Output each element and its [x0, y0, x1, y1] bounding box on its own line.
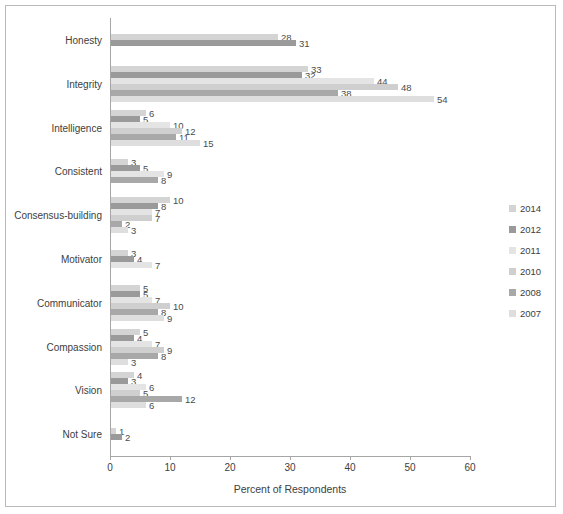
chart-frame: HonestyIntegrityIntelligenceConsistentCo…	[5, 5, 556, 507]
chart-legend: 201420122011201020082007	[509, 198, 557, 324]
category-label: Intelligence	[51, 122, 102, 133]
bar[interactable]	[110, 315, 164, 321]
bar-row: 7	[110, 262, 470, 268]
bar-row: 9	[110, 315, 470, 321]
bar[interactable]	[110, 262, 152, 268]
category-label: Vision	[75, 385, 102, 396]
legend-item[interactable]: 2012	[509, 219, 557, 240]
legend-swatch-icon	[509, 289, 516, 296]
bar-value-label: 7	[152, 259, 160, 270]
bar-value-label: 3	[128, 356, 136, 367]
bar-value-label: 31	[296, 37, 310, 48]
bar-group: 4365126	[110, 372, 470, 408]
legend-swatch-icon	[509, 205, 516, 212]
bar-value-label: 3	[128, 225, 136, 236]
bar-row: 6	[110, 402, 470, 408]
x-axis-tick-label: 50	[404, 462, 415, 473]
bar[interactable]	[110, 359, 128, 365]
plot-area: 2831333244483854651012111535981087723347…	[110, 18, 470, 456]
legend-swatch-icon	[509, 226, 516, 233]
category-label: Communicator	[37, 297, 102, 308]
legend-swatch-icon	[509, 247, 516, 254]
bar-group: 333244483854	[110, 66, 470, 102]
legend-label: 2007	[520, 308, 541, 319]
legend-item[interactable]: 2010	[509, 261, 557, 282]
bar[interactable]	[110, 227, 128, 233]
x-axis-tick	[110, 456, 111, 460]
bar-value-label: 9	[164, 312, 172, 323]
bar[interactable]	[110, 177, 158, 183]
x-axis-tick	[290, 456, 291, 460]
legend-label: 2012	[520, 224, 541, 235]
bar[interactable]	[110, 402, 146, 408]
y-axis-line	[110, 18, 111, 456]
x-axis-tick-label: 30	[284, 462, 295, 473]
x-axis-tick	[470, 456, 471, 460]
category-label: Consistent	[55, 166, 102, 177]
category-label: Consensus-building	[14, 210, 102, 221]
x-axis-title: Percent of Respondents	[110, 483, 470, 495]
x-axis-tick	[170, 456, 171, 460]
bar[interactable]	[110, 96, 434, 102]
bar-group: 547983	[110, 329, 470, 365]
bar-row: 15	[110, 140, 470, 146]
category-axis-labels: HonestyIntegrityIntelligenceConsistentCo…	[6, 18, 102, 456]
bar-group: 2831	[110, 34, 470, 46]
legend-item[interactable]: 2011	[509, 240, 557, 261]
legend-swatch-icon	[509, 268, 516, 275]
bar-group: 5571089	[110, 285, 470, 321]
legend-label: 2011	[520, 245, 540, 256]
bar[interactable]	[110, 40, 296, 46]
bar-row: 31	[110, 40, 470, 46]
bar-row: 2	[110, 434, 470, 440]
x-axis-tick-label: 40	[344, 462, 355, 473]
x-axis-line: 0102030405060	[110, 456, 470, 457]
bar-row: 3	[110, 359, 470, 365]
bar[interactable]	[110, 140, 200, 146]
bar-group: 1087723	[110, 197, 470, 233]
x-axis-tick-label: 0	[107, 462, 113, 473]
legend-label: 2014	[520, 203, 541, 214]
bar[interactable]	[110, 434, 122, 440]
x-axis-tick-label: 20	[224, 462, 235, 473]
bar-group: 347	[110, 250, 470, 268]
bar-row: 54	[110, 96, 470, 102]
legend-swatch-icon	[509, 310, 516, 317]
legend-label: 2010	[520, 266, 541, 277]
category-label: Not Sure	[63, 429, 102, 440]
category-label: Integrity	[66, 78, 102, 89]
x-axis-tick	[230, 456, 231, 460]
bar-value-label: 54	[434, 93, 448, 104]
legend-item[interactable]: 2014	[509, 198, 557, 219]
bar-value-label: 2	[122, 432, 130, 443]
bar-row: 8	[110, 177, 470, 183]
bar-row: 3	[110, 227, 470, 233]
bar-value-label: 15	[200, 137, 214, 148]
bar-value-label: 8	[158, 175, 166, 186]
x-axis-tick-label: 60	[464, 462, 475, 473]
x-axis-tick	[350, 456, 351, 460]
category-label: Motivator	[61, 253, 102, 264]
bar-group: 6510121115	[110, 110, 470, 146]
bar-group: 3598	[110, 159, 470, 183]
legend-label: 2008	[520, 287, 541, 298]
x-axis-tick	[410, 456, 411, 460]
legend-item[interactable]: 2007	[509, 303, 557, 324]
bar-value-label: 6	[146, 400, 154, 411]
category-label: Compassion	[46, 341, 102, 352]
category-label: Honesty	[65, 34, 102, 45]
bar-group: 12	[110, 428, 470, 440]
legend-item[interactable]: 2008	[509, 282, 557, 303]
x-axis-tick-label: 10	[164, 462, 175, 473]
